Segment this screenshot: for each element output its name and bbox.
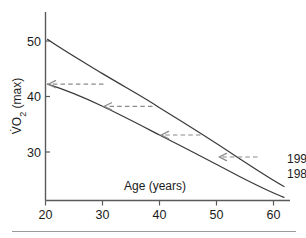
y-axis-title-tail: (max) <box>10 78 24 112</box>
axes <box>46 12 291 201</box>
y-axis-title-o: O <box>10 117 24 126</box>
series-curves <box>48 39 285 197</box>
annotation-arrows <box>48 81 257 161</box>
vo2-max-vs-age-chart: 50 40 30 20 30 40 50 60 Age (years) V̇O2… <box>0 0 306 238</box>
x-axis-ticks: 20 30 40 50 60 <box>39 201 281 223</box>
curve-1990 <box>48 39 285 186</box>
dashed-arrow-4 <box>219 153 257 160</box>
y-axis-title: V̇O2 (max) <box>10 78 28 134</box>
x-tick-label-50: 50 <box>210 208 224 222</box>
svg-text:V̇O2 (max): V̇O2 (max) <box>10 78 28 134</box>
y-axis-ticks: 50 40 30 <box>27 35 50 160</box>
dashed-arrow-3 <box>161 131 200 138</box>
y-tick-label-50: 50 <box>27 35 41 49</box>
x-axis-title: Age (years) <box>124 179 186 193</box>
y-axis-title-vdot: V̇ <box>10 126 24 134</box>
x-tick-label-60: 60 <box>267 208 281 222</box>
series-label-1980: 1980 <box>287 167 306 181</box>
series-end-labels: 1990 1980 <box>287 152 306 181</box>
x-tick-label-30: 30 <box>96 208 110 222</box>
y-tick-label-40: 40 <box>27 90 41 104</box>
y-tick-label-30: 30 <box>27 146 41 160</box>
dashed-arrow-2 <box>104 103 152 110</box>
x-tick-label-20: 20 <box>39 208 53 222</box>
series-label-1990: 1990 <box>287 152 306 166</box>
x-tick-label-40: 40 <box>153 208 167 222</box>
